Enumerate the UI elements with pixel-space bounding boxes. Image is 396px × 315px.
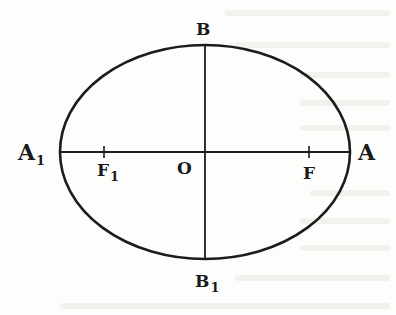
label-f-text: F [303,163,315,183]
label-f1-text: F [97,160,109,180]
label-o: O [177,160,192,177]
label-a: A [358,141,375,163]
ellipse-figure [0,0,396,315]
ellipse-diagram: B B1 A1 A O F1 F [0,0,396,315]
label-o-text: O [177,158,192,178]
label-f: F [303,165,315,182]
label-a1-text: A [18,139,35,165]
label-b1-subscript: 1 [210,280,219,295]
label-b: B [196,21,210,38]
label-f1: F1 [97,162,119,179]
label-b1-text: B [195,271,209,291]
label-b1: B1 [195,273,219,290]
label-b-text: B [196,19,210,39]
label-f1-subscript: 1 [110,169,119,184]
label-a1-subscript: 1 [36,153,45,168]
label-a1: A1 [18,141,45,163]
label-a-text: A [358,139,375,165]
